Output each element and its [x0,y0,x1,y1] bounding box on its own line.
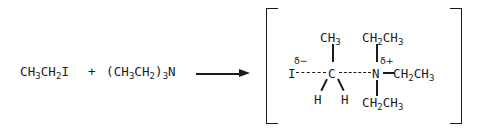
bond-carbon-hydrogen-right [337,79,344,91]
arrow-shaft [196,73,242,75]
transition-state-bracket-left [266,8,278,124]
reactant-iodoethane: CH3CH2I [20,64,69,81]
bond-carbon-methyl [332,44,334,62]
bond-nitrogen-ethyl-bottom [376,80,378,96]
plus-sign: + [88,64,96,79]
atom-hydrogen-left: H [314,92,322,107]
partial-bond-carbon-nitrogen [339,72,371,73]
atom-hydrogen-right: H [341,92,349,107]
reactant-triethylamine: (CH3CH2)3N [106,64,176,81]
arrow-head [239,69,250,77]
atom-carbon: C [328,66,336,81]
atom-iodine: I [288,66,296,81]
substituent-ethyl-bottom: CH2CH3 [362,95,403,112]
reaction-diagram: CH3CH2I + (CH3CH2)3N I C N δ− δ+ CH3 CH2… [0,0,487,135]
reaction-arrow-icon [196,72,250,75]
bond-nitrogen-ethyl-top [376,44,378,62]
atom-nitrogen: N [372,66,380,81]
transition-state-bracket-right [450,8,462,124]
substituent-ethyl-top: CH2CH3 [362,30,403,47]
partial-bond-iodine-carbon [296,72,326,73]
substituent-methyl: CH3 [320,30,341,47]
bond-carbon-hydrogen-left [320,79,327,91]
partial-charge-positive: δ+ [380,55,394,66]
substituent-ethyl-right: CH2CH3 [393,66,434,83]
partial-charge-negative: δ− [294,55,308,66]
